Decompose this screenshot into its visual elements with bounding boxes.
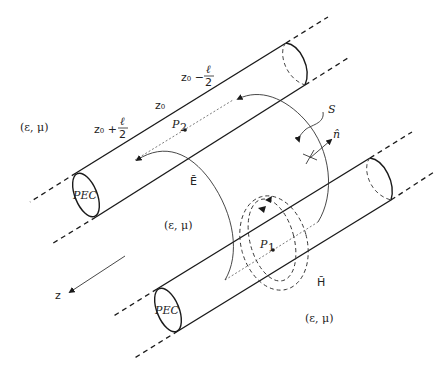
label-two-bottom: 2 bbox=[119, 128, 126, 141]
bottom-conductor-back-dash-upper bbox=[370, 132, 412, 158]
top-conductor-back-dash-upper bbox=[286, 17, 328, 43]
bottom-conductor-edge-lower bbox=[178, 200, 391, 331]
pec-label-bottom: PEC bbox=[154, 304, 179, 317]
surface-s-arc bbox=[238, 95, 329, 222]
label-p1: P bbox=[259, 238, 268, 251]
label-surface-s: S bbox=[328, 103, 336, 116]
label-e-field: Ē bbox=[190, 175, 197, 188]
bottom-conductor-back-rim bbox=[370, 158, 392, 200]
h-field-arrowhead-1 bbox=[265, 196, 272, 203]
z-axis-arrow bbox=[70, 256, 125, 292]
conductor-top: PEC bbox=[30, 17, 348, 245]
top-conductor-edge-lower bbox=[96, 85, 305, 217]
h-field-arrowhead-2 bbox=[258, 206, 266, 213]
e-field-arc bbox=[137, 151, 233, 280]
label-z0-minus: z₀ − bbox=[181, 71, 204, 84]
transmission-line-diagram: PEC PEC z z₀ − ℓ 2 z₀ bbox=[0, 0, 447, 375]
label-z0: z₀ bbox=[155, 99, 166, 112]
label-ell-bottom: ℓ bbox=[120, 115, 125, 128]
label-two-top: 2 bbox=[205, 76, 212, 89]
top-conductor-back-dash-lower bbox=[305, 58, 348, 85]
label-h-field: H̄ bbox=[317, 276, 325, 289]
top-conductor-back-rim bbox=[286, 43, 307, 85]
top-conductor-front-dash-upper bbox=[30, 173, 76, 202]
pec-label-top: PEC bbox=[72, 189, 97, 202]
label-medium-center: (ε, μ) bbox=[164, 219, 192, 232]
x-marker-b bbox=[306, 150, 314, 164]
bottom-conductor-front-dash-lower bbox=[133, 331, 178, 359]
label-p2: P bbox=[171, 118, 180, 131]
bottom-conductor-back-hidden-rim bbox=[367, 158, 391, 200]
label-p1-sub: 1 bbox=[268, 241, 275, 254]
label-z0-plus: z₀ + bbox=[94, 123, 117, 136]
bottom-conductor-front-dash-upper bbox=[112, 289, 157, 317]
top-conductor-front-dash-lower bbox=[50, 217, 96, 245]
label-p2-sub: 2 bbox=[180, 121, 187, 134]
top-conductor-edge-upper bbox=[76, 43, 286, 173]
surface-s-pointer bbox=[299, 112, 323, 141]
label-normal: n̂ bbox=[333, 128, 340, 141]
label-ell-top: ℓ bbox=[206, 63, 211, 76]
label-medium-bottom-right: (ε, μ) bbox=[305, 312, 333, 325]
label-medium-top-left: (ε, μ) bbox=[20, 121, 48, 134]
bottom-conductor-back-dash-lower bbox=[391, 172, 434, 200]
top-conductor-back-hidden-rim bbox=[283, 43, 305, 85]
z-axis-label: z bbox=[55, 289, 61, 302]
